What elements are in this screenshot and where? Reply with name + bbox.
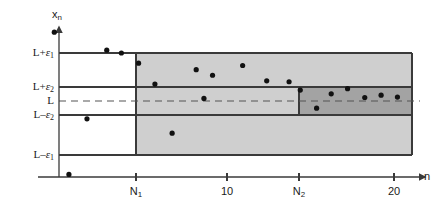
data-point bbox=[136, 61, 141, 66]
y-axis-name: xn bbox=[52, 9, 62, 20]
data-point bbox=[264, 78, 269, 83]
xtick-label-N1: N1 bbox=[116, 186, 156, 197]
convergence-figure: L+ε1 L+ε2 L L–ε2 L–ε1 xn n N1 10 N2 20 bbox=[0, 0, 434, 208]
data-point bbox=[298, 87, 303, 92]
data-point bbox=[201, 96, 206, 101]
data-point bbox=[345, 86, 350, 91]
data-point bbox=[66, 172, 71, 177]
xtick-label-N2: N2 bbox=[279, 186, 319, 197]
ytick-label-L-minus-eps1: L–ε1 bbox=[10, 149, 54, 160]
data-point bbox=[152, 81, 157, 86]
ytick-label-L-minus-eps2: L–ε2 bbox=[10, 109, 54, 120]
data-point bbox=[52, 30, 57, 35]
ytick-label-L: L bbox=[10, 95, 54, 106]
data-point bbox=[395, 94, 400, 99]
data-point bbox=[104, 48, 109, 53]
x-axis-name: n bbox=[424, 171, 430, 182]
data-point bbox=[210, 73, 215, 78]
ytick-label-L-plus-eps2: L+ε2 bbox=[10, 81, 54, 92]
data-point bbox=[362, 95, 367, 100]
xtick-label-20: 20 bbox=[374, 186, 414, 197]
data-point bbox=[84, 116, 89, 121]
data-point bbox=[379, 93, 384, 98]
data-point bbox=[329, 91, 334, 96]
data-point bbox=[170, 131, 175, 136]
xtick-label-10: 10 bbox=[207, 186, 247, 197]
data-point bbox=[314, 106, 319, 111]
ytick-label-L-plus-eps1: L+ε1 bbox=[10, 47, 54, 58]
data-point bbox=[119, 50, 124, 55]
data-point bbox=[240, 63, 245, 68]
data-point bbox=[286, 79, 291, 84]
data-point bbox=[194, 67, 199, 72]
band-group bbox=[136, 53, 412, 155]
plot-canvas bbox=[0, 0, 434, 208]
